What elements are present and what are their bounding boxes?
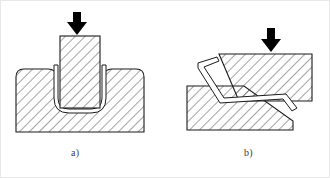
- panel-b-group: [187, 28, 312, 130]
- bending-diagram-svg: [1, 1, 330, 178]
- panel-a-group: [16, 12, 144, 132]
- caption-label-a: a): [71, 147, 79, 158]
- figure-container: a) b): [0, 0, 330, 178]
- force-arrow-b: [261, 28, 281, 52]
- force-arrow-a: [67, 12, 87, 35]
- caption-label-b: b): [244, 147, 253, 158]
- punch-a: [60, 36, 100, 108]
